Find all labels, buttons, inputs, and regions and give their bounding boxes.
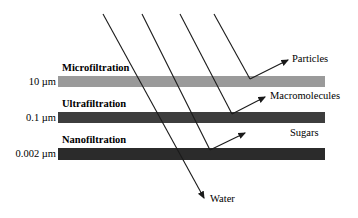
feed-line-particles	[214, 14, 250, 79]
retentate-arrow-sugars	[210, 133, 245, 150]
stream-label-sugars: Sugars	[290, 127, 319, 138]
retentate-arrow-particles	[250, 60, 288, 79]
retentate-arrow-macromolecules	[232, 97, 265, 114]
feed-line-water	[103, 14, 204, 198]
stream-label-macromolecules: Macromolecules	[270, 90, 340, 101]
flow-lines-layer	[0, 0, 358, 218]
feed-line-macromolecules	[180, 14, 232, 114]
feed-line-sugars	[142, 14, 210, 150]
membrane-filtration-diagram: 10 µm 0.1 µm 0.002 µm Microfiltration Ul…	[0, 0, 358, 218]
stream-label-particles: Particles	[292, 53, 328, 64]
stream-label-water: Water	[210, 193, 235, 204]
